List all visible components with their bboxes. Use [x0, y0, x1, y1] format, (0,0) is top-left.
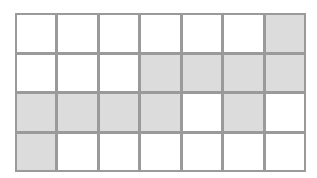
empty-cell-r1-c1 — [17, 15, 55, 52]
shaded-cell-r3-c6 — [224, 94, 262, 131]
empty-cell-r4-c2 — [58, 134, 96, 171]
shaded-cell-r3-c1 — [17, 94, 55, 131]
empty-cell-r1-c5 — [183, 15, 221, 52]
shaded-cell-r3-c2 — [58, 94, 96, 131]
empty-cell-r4-c3 — [100, 134, 138, 171]
shaded-cell-r1-c7 — [266, 15, 304, 52]
shaded-cell-r4-c1 — [17, 134, 55, 171]
empty-cell-r4-c7 — [266, 134, 304, 171]
shaded-cell-r3-c4 — [141, 94, 179, 131]
empty-cell-r2-c1 — [17, 55, 55, 92]
empty-cell-r1-c2 — [58, 15, 96, 52]
empty-cell-r4-c6 — [224, 134, 262, 171]
empty-cell-r4-c4 — [141, 134, 179, 171]
empty-cell-r3-c5 — [183, 94, 221, 131]
empty-cell-r4-c5 — [183, 134, 221, 171]
shaded-cell-r2-c6 — [224, 55, 262, 92]
shaded-cell-r3-c3 — [100, 94, 138, 131]
empty-cell-r2-c3 — [100, 55, 138, 92]
empty-cell-r1-c3 — [100, 15, 138, 52]
empty-cell-r1-c6 — [224, 15, 262, 52]
shaded-grid-diagram — [15, 13, 306, 172]
shaded-cell-r2-c5 — [183, 55, 221, 92]
empty-cell-r2-c2 — [58, 55, 96, 92]
empty-cell-r1-c4 — [141, 15, 179, 52]
shaded-cell-r2-c7 — [266, 55, 304, 92]
empty-cell-r3-c7 — [266, 94, 304, 131]
shaded-cell-r2-c4 — [141, 55, 179, 92]
